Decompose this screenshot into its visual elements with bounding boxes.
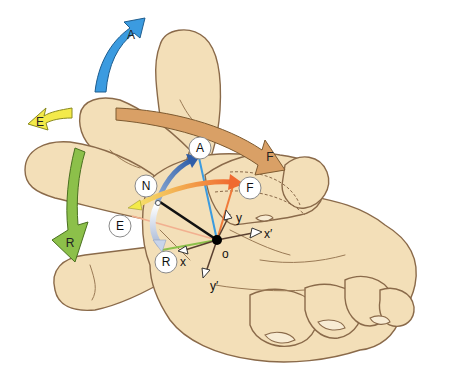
circle-label-n: N	[135, 175, 157, 197]
axis-x-label: x	[180, 255, 186, 269]
arrow-extension: E	[28, 108, 72, 130]
svg-text:N: N	[142, 179, 151, 193]
arrow-label-e: E	[36, 115, 44, 129]
hand-illustration: A E F R o y x′ x y′	[0, 0, 457, 388]
origin-label: o	[222, 247, 229, 261]
hand	[25, 30, 416, 362]
circle-label-r: R	[155, 251, 177, 273]
svg-text:E: E	[116, 219, 124, 233]
svg-text:F: F	[246, 181, 253, 195]
axis-x-prime-label: x′	[264, 227, 273, 241]
circle-label-a: A	[189, 137, 211, 159]
axis-y-label: y	[236, 211, 242, 225]
arrow-label-r: R	[66, 236, 75, 250]
svg-text:A: A	[196, 141, 204, 155]
circle-label-f: F	[239, 177, 261, 199]
circle-label-e: E	[109, 215, 131, 237]
neutral-point	[156, 201, 161, 206]
arrow-abduction: A	[95, 18, 145, 92]
arrow-label-f: F	[266, 150, 273, 164]
axis-y-prime-label: y′	[210, 279, 219, 293]
hand-motion-diagram: A E F R o y x′ x y′	[0, 0, 457, 388]
origin-point	[212, 235, 222, 245]
svg-text:R: R	[162, 255, 171, 269]
arrow-label-a: A	[127, 28, 135, 42]
